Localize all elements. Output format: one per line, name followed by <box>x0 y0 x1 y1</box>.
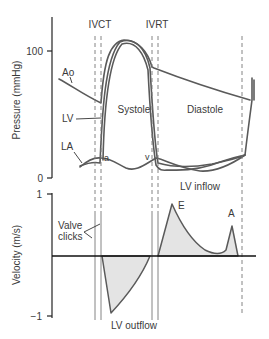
lv-leader <box>76 118 101 119</box>
tick-label-100: 100 <box>26 46 43 57</box>
lv-outflow-waveform <box>102 256 150 313</box>
lv-inflow-label: LV inflow <box>180 181 221 192</box>
pressure-panel: 100 0 Pressure (mmHg) IVCT IVRT Systole … <box>11 17 254 184</box>
aortic-pressure-curve <box>59 40 250 103</box>
tick-label-minus-1: −1 <box>31 311 43 322</box>
ivct-label: IVCT <box>89 19 112 30</box>
ao-label: Ao <box>62 67 75 78</box>
pressure-axis-title: Pressure (mmHg) <box>11 61 22 140</box>
a-wave-velocity-label: A <box>228 208 235 219</box>
la-leader <box>74 152 82 163</box>
lv-outflow-label: LV outflow <box>111 320 158 331</box>
lv-label: LV <box>62 113 74 124</box>
valve-clicks-label-line2: clicks <box>58 231 82 242</box>
velocity-axis-title: Velocity (m/s) <box>11 225 22 285</box>
tick-label-1: 1 <box>36 189 42 200</box>
diastole-label: Diastole <box>187 104 224 115</box>
diagram-canvas: 100 0 Pressure (mmHg) IVCT IVRT Systole … <box>0 0 269 339</box>
lv-inflow-waveform <box>158 204 238 256</box>
cardiac-cycle-figure: 100 0 Pressure (mmHg) IVCT IVRT Systole … <box>0 0 269 339</box>
velocity-panel: 1 −1 Velocity (m/s) Valve clicks LV infl… <box>11 181 256 331</box>
valve-clicks-label-line1: Valve <box>58 220 83 231</box>
la-label: LA <box>61 141 74 152</box>
e-wave-label: E <box>178 200 185 211</box>
valve-clicks-leader <box>84 224 100 238</box>
a-wave-label: a <box>104 153 109 163</box>
v-wave-label: v <box>145 152 150 162</box>
systole-label: Systole <box>118 104 151 115</box>
tick-label-0: 0 <box>37 173 43 184</box>
ivrt-label: IVRT <box>146 19 169 30</box>
